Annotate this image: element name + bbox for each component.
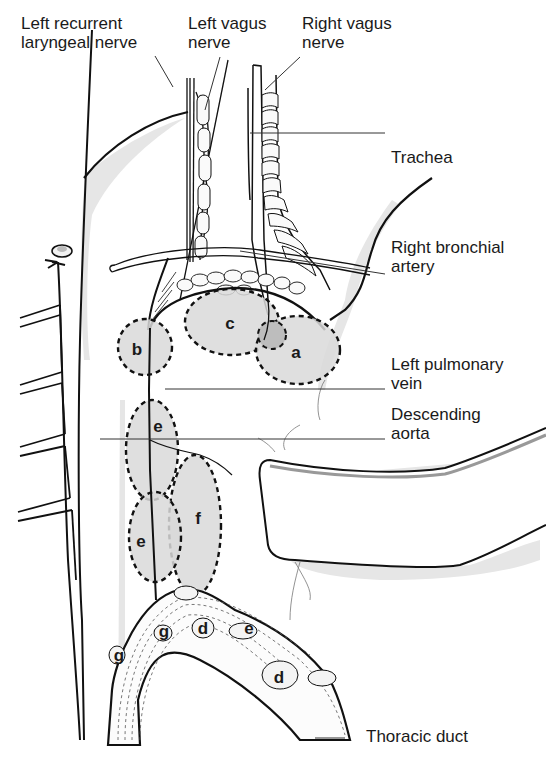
- region-label-e-lower: e: [136, 532, 145, 551]
- label-left-pulmonary-vein: Left pulmonary vein: [391, 355, 503, 393]
- region-label-b: b: [132, 340, 142, 359]
- label-left-vagus-nerve: Left vagus nerve: [188, 14, 266, 52]
- label-right-bronchial-artery: Right bronchial artery: [391, 238, 504, 276]
- region-label-d-lower: d: [274, 668, 284, 687]
- region-label-g-lower: g: [114, 646, 124, 665]
- region-label-e-node: e: [244, 619, 253, 638]
- bronchial-structures: [110, 248, 370, 275]
- overlap-ac: [258, 321, 286, 349]
- aortic-arch-body: [108, 589, 350, 745]
- region-label-e-upper: e: [153, 417, 162, 436]
- left-vertebral-segments: [195, 95, 211, 258]
- label-thoracic-duct: Thoracic duct: [366, 727, 468, 746]
- region-label-a: a: [291, 343, 301, 362]
- region-b: [118, 319, 172, 375]
- label-right-vagus-nerve: Right vagus nerve: [302, 14, 392, 52]
- region-label-c: c: [225, 314, 234, 333]
- region-e-upper: [126, 400, 178, 500]
- retractor: [259, 428, 546, 567]
- spine-outline: [52, 30, 92, 740]
- region-label-g-upper: g: [159, 622, 169, 641]
- region-label-d-upper: d: [198, 619, 208, 638]
- label-trachea: Trachea: [391, 148, 453, 167]
- label-descending-aorta: Descending aorta: [391, 405, 481, 443]
- region-label-f: f: [195, 509, 201, 528]
- label-left-recurrent-laryngeal-nerve: Left recurrent laryngeal nerve: [21, 14, 137, 52]
- tracheal-rings: [262, 93, 316, 276]
